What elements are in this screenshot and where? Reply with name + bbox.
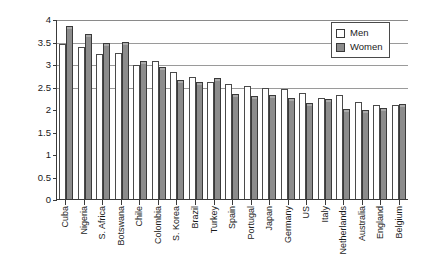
x-axis-tick — [223, 200, 242, 205]
x-axis-label-botswana: Botswana — [112, 206, 131, 278]
bar-men — [133, 67, 140, 199]
bar-women — [85, 36, 92, 199]
bar-group — [57, 20, 75, 199]
x-axis-tick — [204, 200, 223, 205]
bar-cap — [288, 98, 295, 101]
bar-cap — [269, 95, 276, 98]
bar-women — [196, 84, 203, 199]
x-axis-label-text: Italy — [320, 206, 329, 223]
y-axis-tick-label: 2.5 — [38, 83, 51, 93]
bar-cap — [122, 42, 129, 45]
bar-cap — [96, 54, 103, 57]
bar-cap — [373, 105, 380, 108]
x-axis-label-text: Japan — [265, 206, 274, 231]
bar-men — [170, 74, 177, 199]
bar-cap — [380, 108, 387, 111]
bar-group — [75, 20, 93, 199]
bar-group — [94, 20, 112, 199]
x-axis-label-text: S. Korea — [172, 206, 181, 241]
legend-item-men: Men — [336, 26, 383, 40]
bar-women — [288, 100, 295, 199]
x-axis-tick — [297, 200, 316, 205]
bar-women — [66, 28, 73, 199]
x-axis-label-cuba: Cuba — [56, 206, 75, 278]
bar-men — [78, 49, 85, 199]
bar-group — [279, 20, 297, 199]
bar-cap — [306, 103, 313, 106]
bar-group — [186, 20, 204, 199]
x-axis-tick — [315, 200, 334, 205]
bar-women — [140, 63, 147, 199]
legend: Men Women — [331, 22, 390, 58]
bar-cap — [244, 86, 251, 89]
bar-men — [207, 84, 214, 199]
bar-women — [380, 110, 387, 199]
x-axis-tick — [371, 200, 390, 205]
bar-cap — [225, 84, 232, 87]
x-axis-tick — [353, 200, 372, 205]
bar-women — [177, 82, 184, 199]
x-axis-tick — [167, 200, 186, 205]
bar-group — [389, 20, 407, 199]
bar-cap — [392, 105, 399, 108]
bar-cap — [59, 44, 66, 47]
x-axis-label-text: S. Africa — [98, 206, 107, 240]
x-axis-label-italy: Italy — [315, 206, 334, 278]
bar-men — [373, 107, 380, 199]
x-axis-label-text: Chile — [135, 206, 144, 227]
x-axis-label-germany: Germany — [278, 206, 297, 278]
bar-women — [232, 96, 239, 199]
x-axis-tick — [186, 200, 205, 205]
bar-cap — [399, 104, 406, 107]
bar-group — [242, 20, 260, 199]
x-axis-label-belgium: Belgium — [390, 206, 409, 278]
y-axis-tick-label: 1 — [46, 150, 51, 160]
bar-men — [281, 91, 288, 199]
bar-women — [362, 112, 369, 199]
bar-men — [392, 107, 399, 199]
bar-men — [244, 88, 251, 199]
x-axis-label-text: US — [302, 206, 311, 219]
bar-group — [131, 20, 149, 199]
legend-item-women: Women — [336, 40, 383, 54]
legend-swatch-women-icon — [336, 43, 345, 52]
bar-women — [251, 98, 258, 199]
bar-group — [168, 20, 186, 199]
x-axis-tick — [112, 200, 131, 205]
bar-cap — [133, 65, 140, 68]
bar-women — [103, 45, 110, 199]
x-axis-label-text: Belgium — [394, 206, 403, 239]
bar-group — [205, 20, 223, 199]
bar-men — [299, 95, 306, 199]
bar-women — [159, 69, 166, 199]
y-axis-tick-label: 0.5 — [38, 173, 51, 183]
y-axis-tick-label: 0 — [46, 195, 51, 205]
bar-group — [149, 20, 167, 199]
legend-label-women: Women — [350, 42, 383, 52]
bar-group — [260, 20, 278, 199]
x-axis-label-text: Netherlands — [339, 206, 348, 255]
bar-men — [189, 79, 196, 199]
x-axis-label-portugal: Portugal — [241, 206, 260, 278]
x-axis-label-england: England — [371, 206, 390, 278]
y-axis-tick-label: 2 — [46, 105, 51, 115]
x-axis-label-text: England — [376, 206, 385, 239]
bar-women — [269, 97, 276, 199]
bar-cap — [251, 96, 258, 99]
x-axis-label-text: Brazil — [190, 206, 199, 229]
bar-men — [152, 63, 159, 199]
bar-cap — [85, 34, 92, 37]
bar-cap — [355, 102, 362, 105]
x-axis-label-chile: Chile — [130, 206, 149, 278]
x-axis-label-text: Nigeria — [79, 206, 88, 235]
bar-cap — [140, 61, 147, 64]
x-axis-label-netherlands: Netherlands — [334, 206, 353, 278]
x-axis-label-spain: Spain — [223, 206, 242, 278]
x-axis-tick — [260, 200, 279, 205]
x-axis-label-text: Cuba — [61, 206, 70, 228]
x-axis-tick — [334, 200, 353, 205]
bar-cap — [325, 99, 332, 102]
bar-men — [355, 104, 362, 199]
bar-cap — [66, 26, 73, 29]
bar-cap — [336, 95, 343, 98]
